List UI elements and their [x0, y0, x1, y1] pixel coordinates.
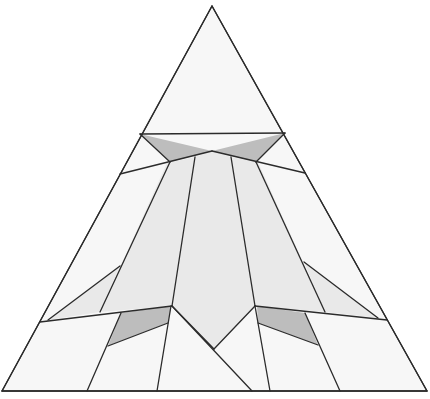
triangle-dissection-diagram [0, 0, 430, 399]
regions-layer [2, 6, 427, 391]
region-top-cap [140, 6, 285, 151]
diagram-canvas [0, 0, 430, 399]
